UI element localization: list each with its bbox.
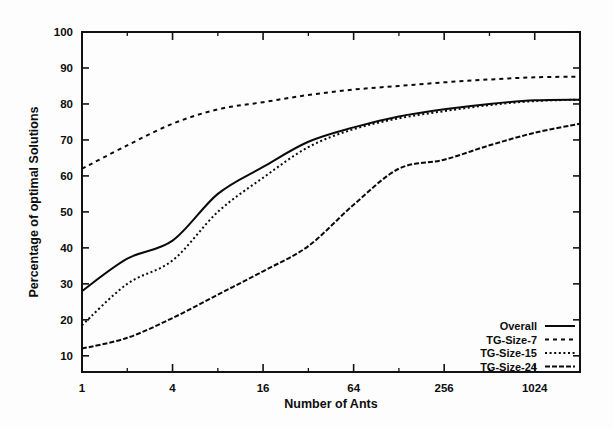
x-tick-label: 16 bbox=[257, 382, 270, 394]
y-tick-label: 40 bbox=[60, 242, 73, 254]
y-tick-label: 70 bbox=[60, 134, 73, 146]
y-tick-label: 90 bbox=[60, 62, 73, 74]
series-line-tg-size-24 bbox=[82, 124, 580, 349]
x-tick-label: 1024 bbox=[522, 382, 548, 394]
y-axis-tick-labels: 102030405060708090100 bbox=[54, 26, 73, 362]
y-tick-label: 10 bbox=[60, 350, 73, 362]
legend-label-tg-size-24: TG-Size-24 bbox=[480, 361, 538, 373]
x-tick-label: 256 bbox=[435, 382, 454, 394]
series-line-overall bbox=[82, 100, 580, 291]
y-axis-ticks bbox=[82, 32, 580, 356]
x-tick-label: 4 bbox=[169, 382, 176, 394]
y-tick-label: 80 bbox=[60, 98, 73, 110]
legend-label-tg-size-7: TG-Size-7 bbox=[486, 334, 537, 346]
data-series-group bbox=[82, 77, 580, 349]
line-chart: 102030405060708090100 1416642561024 Numb… bbox=[0, 0, 613, 429]
y-tick-label: 30 bbox=[60, 278, 73, 290]
y-axis-title: Percentage of optimal Solutions bbox=[27, 106, 41, 297]
x-axis-tick-labels: 1416642561024 bbox=[79, 382, 548, 394]
chart-figure: 102030405060708090100 1416642561024 Numb… bbox=[0, 0, 613, 429]
x-tick-label: 64 bbox=[347, 382, 360, 394]
y-tick-label: 20 bbox=[60, 314, 73, 326]
legend-label-tg-size-15: TG-Size-15 bbox=[480, 347, 537, 359]
legend-label-overall: Overall bbox=[500, 320, 537, 332]
x-tick-label: 1 bbox=[79, 382, 86, 394]
y-tick-label: 50 bbox=[60, 206, 73, 218]
y-tick-label: 100 bbox=[54, 26, 73, 38]
series-line-tg-size-7 bbox=[82, 77, 580, 169]
chart-legend: OverallTG-Size-7TG-Size-15TG-Size-24 bbox=[480, 320, 575, 373]
x-axis-title: Number of Ants bbox=[284, 397, 377, 411]
y-tick-label: 60 bbox=[60, 170, 73, 182]
